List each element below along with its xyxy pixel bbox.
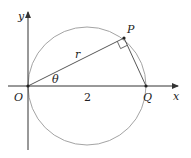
- radius-label: r: [75, 48, 81, 61]
- x-axis-label: x: [173, 90, 180, 103]
- point-q: [144, 84, 147, 87]
- segment-op: [28, 38, 124, 86]
- segment-pq: [124, 38, 146, 86]
- point-o: [26, 84, 29, 87]
- diagram-canvas: y x O P Q r θ 2: [0, 0, 191, 158]
- origin-label: O: [14, 91, 23, 104]
- angle-theta-label: θ: [52, 73, 59, 86]
- point-p-label: P: [126, 23, 135, 36]
- point-q-label: Q: [143, 91, 152, 104]
- y-axis-label: y: [17, 10, 25, 23]
- point-p: [122, 36, 125, 39]
- diameter-label: 2: [84, 91, 91, 104]
